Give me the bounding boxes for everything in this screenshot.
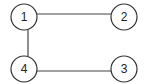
node-3-label: 3 [121, 62, 128, 76]
node-1-label: 1 [21, 10, 28, 24]
node-4-label: 4 [21, 62, 28, 76]
node-1: 1 [11, 4, 37, 30]
node-2-label: 2 [121, 10, 128, 24]
node-3: 3 [111, 56, 137, 82]
node-4: 4 [11, 56, 37, 82]
node-2: 2 [111, 4, 137, 30]
graph-diagram: 1 2 3 4 [0, 0, 148, 84]
